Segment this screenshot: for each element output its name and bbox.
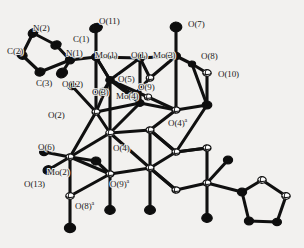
- bond: [150, 130, 176, 152]
- symmetry-code-superscript: a: [185, 117, 188, 123]
- ellipsoid-body: [106, 130, 114, 137]
- ellipsoid-body: [66, 193, 74, 200]
- atom-ellipsoid-dark: [170, 22, 182, 32]
- atom-ellipsoid-dark: [188, 61, 195, 67]
- ellipsoid-body: [172, 107, 180, 113]
- ellipsoid-body: [92, 109, 100, 115]
- atom-label-n1: N(1): [66, 49, 83, 58]
- bond: [70, 174, 110, 196]
- atom-label-o10: O(10): [218, 70, 239, 79]
- ellipsoid-body: [172, 149, 180, 155]
- structure-canvas: [0, 0, 304, 248]
- atom-label-o3: O(3): [92, 88, 109, 97]
- atom-label-o9: O(9): [138, 83, 155, 92]
- ellipsoid-body: [170, 22, 182, 32]
- atom-ellipsoid-light: [92, 109, 100, 115]
- ellipsoid-body: [106, 171, 114, 177]
- atom-label-o6: O(6): [38, 143, 55, 152]
- atom-label-o11: O(11): [99, 17, 120, 26]
- atom-label-o9a: O(9)a: [110, 180, 129, 189]
- ellipsoid-body: [105, 206, 115, 215]
- ellipsoid-body: [203, 145, 211, 151]
- atom-label-o13: O(13): [24, 180, 45, 189]
- atom-ellipsoid-dark: [64, 223, 75, 232]
- ellipsoid-body: [146, 75, 154, 81]
- atom-ellipsoid-light: [146, 127, 154, 133]
- atom-ellipsoid-light: [66, 193, 74, 200]
- ellipsoid-body: [188, 61, 195, 67]
- atom-ellipsoid-dark: [145, 206, 156, 215]
- atom-label-o12: O(12): [62, 80, 83, 89]
- atom-label-o7: O(7): [188, 20, 205, 29]
- atom-label-n2: N(2): [33, 24, 50, 33]
- atom-label-o8a: O(8)a: [75, 202, 94, 211]
- atom-ellipsoid-dark: [237, 188, 246, 196]
- bond: [207, 183, 242, 192]
- atom-ellipsoid-dark: [202, 101, 212, 109]
- atom-label-o5: O(5): [118, 75, 135, 84]
- ellipsoid-body: [223, 156, 232, 164]
- bond: [110, 168, 150, 174]
- atom-ellipsoid-light: [146, 165, 154, 171]
- atom-label-o4a: O(4)a: [168, 119, 187, 128]
- atom-ellipsoid-dark: [223, 156, 232, 164]
- ellipsoid-body: [64, 223, 75, 232]
- atom-ellipsoid-light: [146, 75, 154, 81]
- ellipsoid-body: [144, 94, 151, 100]
- atom-ellipsoid-dark: [55, 66, 69, 79]
- ellipsoid-body: [202, 214, 212, 223]
- atom-ellipsoid-light: [172, 149, 180, 155]
- ellipsoid-body: [258, 177, 266, 184]
- atom-label-mo2: Mo(2): [47, 168, 70, 177]
- ellipsoid-body: [202, 101, 212, 109]
- ellipsoid-body: [282, 193, 290, 200]
- symmetry-code-superscript: a: [127, 178, 130, 184]
- ellipsoid-body: [106, 77, 114, 84]
- atom-label-o8: O(8): [201, 52, 218, 61]
- ellipsoid-body: [145, 206, 156, 215]
- atom-ellipsoid-dark: [105, 206, 115, 215]
- atom-ellipsoid-light: [203, 70, 211, 77]
- ellipsoid-body: [203, 70, 211, 77]
- atom-label-o1: O(1): [131, 51, 148, 60]
- ellipsoid-body: [237, 188, 246, 196]
- atom-label-o4: O(4): [113, 144, 130, 153]
- atom-label-c1: C(1): [73, 35, 89, 44]
- bond: [150, 152, 176, 168]
- crystal-structure-figure: N(2)C(1)O(11)O(7)C(2)N(1)Mo(1)O(1)Mo(3)O…: [0, 0, 304, 248]
- atom-ellipsoid-dark: [273, 218, 282, 225]
- ellipsoid-body: [91, 157, 101, 165]
- ellipsoid-body: [273, 218, 282, 225]
- atom-ellipsoid-light: [203, 180, 211, 186]
- ellipsoid-body: [172, 187, 180, 193]
- ellipsoid-body: [203, 180, 211, 186]
- atom-label-c3: C(3): [36, 79, 52, 88]
- ellipsoid-body: [244, 217, 253, 225]
- atom-ellipsoid-light: [172, 107, 180, 113]
- bond: [242, 192, 249, 221]
- atom-ellipsoid-light: [106, 130, 114, 137]
- atom-label-o2: O(2): [48, 111, 65, 120]
- atom-label-c2: C(2): [7, 47, 23, 56]
- atom-ellipsoid-dark: [244, 217, 253, 225]
- bond: [176, 183, 207, 190]
- atom-ellipsoid-light: [258, 177, 266, 184]
- atom-ellipsoid-light: [282, 193, 290, 200]
- atom-ellipsoid-light: [144, 94, 151, 100]
- ellipsoid-body: [66, 154, 74, 160]
- atom-label-mo4: Mo(4): [116, 92, 139, 101]
- ellipsoid-body: [146, 127, 154, 133]
- atom-ellipsoid-light: [66, 154, 74, 160]
- ellipsoid-body: [146, 165, 154, 171]
- atom-label-mo1: Mo(1): [95, 51, 118, 60]
- ellipsoid-body: [55, 66, 69, 79]
- atom-ellipsoid-dark: [202, 214, 212, 223]
- atom-ellipsoid-light: [172, 187, 180, 193]
- atom-ellipsoid-dark: [106, 77, 114, 84]
- symmetry-code-superscript: a: [92, 200, 95, 206]
- bond: [150, 168, 176, 190]
- atom-label-mo3: Mo(3): [153, 51, 176, 60]
- bond: [176, 105, 207, 152]
- bond: [176, 148, 207, 152]
- bond: [110, 130, 150, 133]
